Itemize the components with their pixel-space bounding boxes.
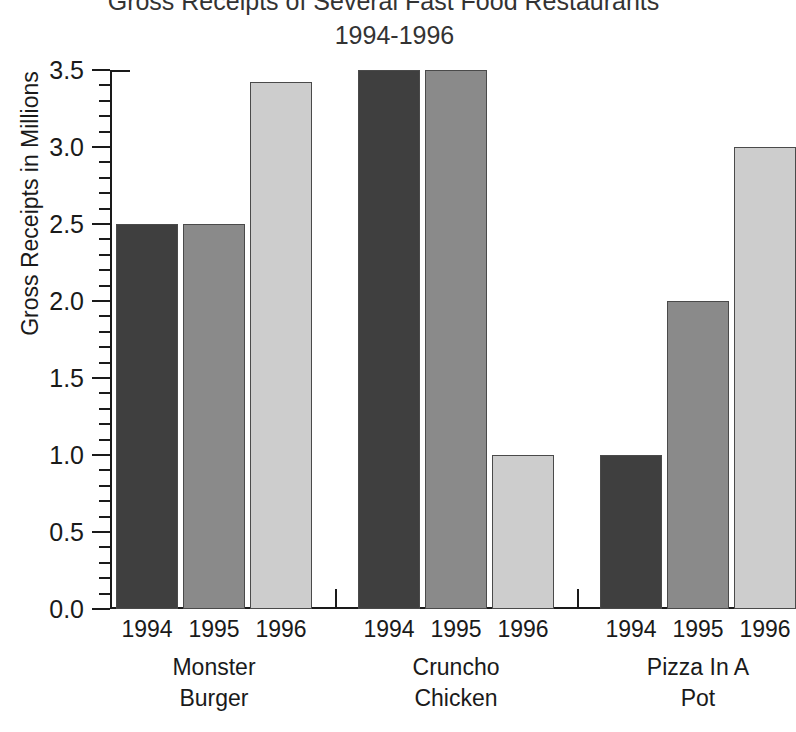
x-axis-group-separator-tick <box>577 589 579 609</box>
axis-top-cap-tick <box>110 70 130 72</box>
chart-title-subtitle: 1994-1996 <box>0 18 767 52</box>
x-tick-label-year: 1994 <box>605 616 656 643</box>
x-tick-label-year: 1996 <box>255 616 306 643</box>
x-tick-label-year: 1995 <box>188 616 239 643</box>
x-tick-label-year: 1995 <box>672 616 723 643</box>
x-axis-group-label: Pizza In APot <box>647 652 749 714</box>
bar <box>358 70 420 609</box>
x-axis-group-label: CrunchoChicken <box>413 652 500 714</box>
y-axis-tick-labels: 0.00.51.01.52.02.53.03.5 <box>0 70 110 609</box>
bar <box>250 82 312 609</box>
bar <box>116 224 178 609</box>
x-axis-group-label-line: Pot <box>647 683 749 714</box>
x-axis-group-label-line: Burger <box>172 683 255 714</box>
bar <box>600 455 662 609</box>
y-tick-label: 3.0 <box>49 133 84 162</box>
bar <box>425 70 487 609</box>
bar <box>183 224 245 609</box>
bar <box>734 147 796 609</box>
y-tick-label: 1.5 <box>49 364 84 393</box>
x-tick-label-year: 1994 <box>121 616 172 643</box>
y-tick-label: 2.5 <box>49 210 84 239</box>
y-tick-label: 0.0 <box>49 595 84 624</box>
plot-area <box>110 70 740 609</box>
bar <box>492 455 554 609</box>
x-axis-group-label: MonsterBurger <box>172 652 255 714</box>
x-tick-label-year: 1994 <box>363 616 414 643</box>
x-axis-group-label-line: Cruncho <box>413 652 500 683</box>
x-tick-label-year: 1996 <box>497 616 548 643</box>
x-axis-labels: 199419951996MonsterBurger199419951996Cru… <box>110 616 740 726</box>
y-axis-line <box>110 70 112 609</box>
chart-title-main: Gross Receipts of Several Fast Food Rest… <box>0 0 767 18</box>
x-axis-group-label-line: Monster <box>172 652 255 683</box>
x-axis-group-separator-tick <box>335 589 337 609</box>
x-axis-group-label-line: Pizza In A <box>647 652 749 683</box>
x-tick-label-year: 1996 <box>739 616 790 643</box>
y-tick-label: 3.5 <box>49 56 84 85</box>
x-tick-label-year: 1995 <box>430 616 481 643</box>
y-tick-label: 1.0 <box>49 441 84 470</box>
y-tick-label: 2.0 <box>49 287 84 316</box>
y-tick-label: 0.5 <box>49 518 84 547</box>
bar <box>667 301 729 609</box>
x-axis-group-label-line: Chicken <box>413 683 500 714</box>
chart-title: Gross Receipts of Several Fast Food Rest… <box>0 0 767 52</box>
